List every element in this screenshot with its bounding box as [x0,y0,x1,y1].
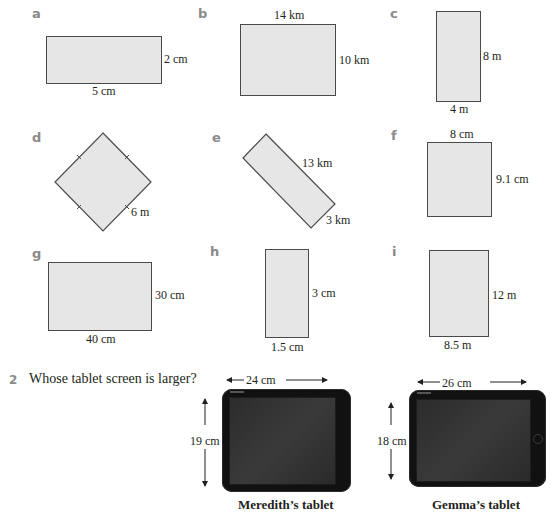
meredith-tablet-image [222,389,351,492]
meredith-tablet-caption: Meredith’s tablet [238,497,334,513]
gemma-width-label: 26 cm [442,376,472,391]
meredith-tablet-screen [229,397,336,485]
home-button-icon [533,434,543,444]
gemma-height-label: 18 cm [377,434,407,449]
gemma-tablet-caption: Gemma’s tablet [432,497,520,513]
meredith-width-label: 24 cm [246,373,276,388]
gemma-tablet-screen [416,399,531,482]
gemma-tablet-image [409,390,546,487]
meredith-height-label: 19 cm [190,434,220,449]
